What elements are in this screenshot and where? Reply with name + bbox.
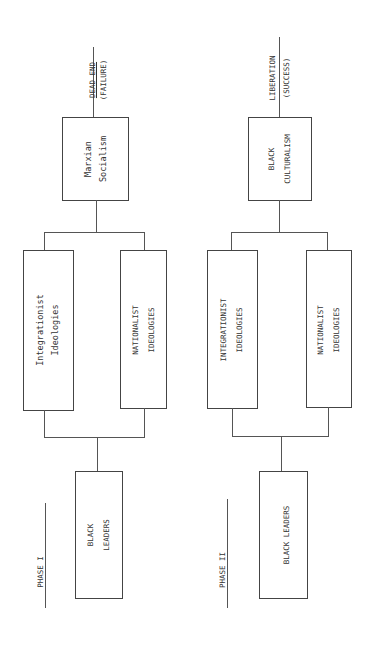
phase-2-label: PHASE II	[217, 552, 228, 588]
phase-1-upper-bar	[44, 232, 145, 233]
phase-1-connector	[97, 437, 98, 471]
phase-1-integrationist-label: Integrationist Ideologies	[33, 294, 63, 366]
phase-1-lower-bar	[44, 437, 145, 438]
phase-2-connector	[232, 408, 233, 436]
phase-2-integrationist-label: INTEGRATIONIST IDEOLOGIES	[216, 298, 248, 361]
phase-2-connector	[279, 200, 280, 232]
phase-2-connector	[231, 232, 232, 250]
phase-1-label: PHASE I	[35, 556, 46, 588]
phase-1-black-leaders-label: BLACK LEADERS	[83, 519, 115, 551]
phase-2-connector	[327, 232, 328, 250]
phase-2-connector	[328, 407, 329, 436]
phase-2-outcome-label: LIBERATION (SUCCESS)	[266, 55, 294, 100]
phase-1-outcome-label: DEAD END (FAILURE)	[87, 60, 109, 101]
phase-2-connector	[281, 436, 282, 471]
phase-2-synthesis-label: BLACK CULTURALISM	[264, 134, 296, 184]
phase-2-black-leaders-label: BLACK LEADERS	[281, 506, 292, 565]
phase-1-synthesis-label: Marxian Socialism	[81, 136, 111, 182]
phase-1-connector	[96, 200, 97, 233]
phase-1-connector	[44, 410, 45, 437]
phase-1-connector	[144, 232, 145, 250]
phase-2-nationalist-label: NATIONALIST IDEOLOGIES	[313, 305, 345, 355]
phase-1-connector	[44, 232, 45, 250]
phase-1-connector	[144, 408, 145, 437]
phase-2-upper-bar	[231, 232, 328, 233]
phase-1-nationalist-label: NATIONALIST IDEOLOGIES	[128, 305, 160, 355]
